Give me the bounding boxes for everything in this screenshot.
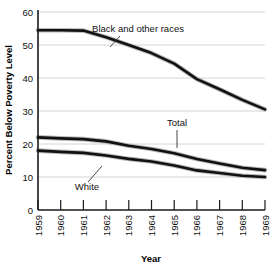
ytick-label-20: 20 bbox=[22, 139, 33, 150]
ytick-label-10: 10 bbox=[22, 172, 33, 183]
xtick-label-1969: 1969 bbox=[260, 215, 271, 236]
xtick-label-1968: 1968 bbox=[237, 215, 248, 236]
x-axis-title: Year bbox=[141, 253, 161, 264]
series-plot-area bbox=[38, 30, 265, 177]
xtick-label-1962: 1962 bbox=[101, 215, 112, 236]
series-label-white: White bbox=[75, 181, 99, 192]
poverty-line-chart: 0 10 20 30 40 50 60 1959 1960 1961 1962 … bbox=[0, 0, 274, 265]
ytick-label-30: 30 bbox=[22, 106, 33, 117]
axes bbox=[38, 10, 265, 210]
xtick-label-1963: 1963 bbox=[123, 215, 134, 236]
xtick-label-1967: 1967 bbox=[214, 215, 225, 236]
series-label-total: Total bbox=[167, 117, 187, 128]
xtick-label-1965: 1965 bbox=[169, 215, 180, 236]
series-black-and-other-races bbox=[38, 30, 265, 109]
series-black-line bbox=[38, 30, 265, 109]
chart-canvas: 0 10 20 30 40 50 60 1959 1960 1961 1962 … bbox=[0, 0, 274, 265]
annotation-white: White bbox=[75, 166, 102, 192]
xtick-label-1964: 1964 bbox=[146, 215, 157, 236]
xtick-label-1959: 1959 bbox=[33, 215, 44, 236]
annotation-total: Total bbox=[167, 117, 187, 148]
y-axis-title: Percent Below Poverty Level bbox=[3, 45, 14, 175]
series-black-shadow bbox=[38, 30, 265, 109]
x-ticks bbox=[38, 200, 265, 210]
xtick-label-1966: 1966 bbox=[191, 215, 202, 236]
ytick-label-40: 40 bbox=[22, 73, 33, 84]
ytick-label-0: 0 bbox=[28, 205, 33, 216]
series-label-black-and-other-races: Black and other races bbox=[92, 23, 184, 34]
x-tick-labels: 1959 1960 1961 1962 1963 1964 1965 1966 … bbox=[33, 215, 271, 236]
ytick-label-60: 60 bbox=[22, 7, 33, 18]
ytick-label-50: 50 bbox=[22, 40, 33, 51]
y-tick-labels: 0 10 20 30 40 50 60 bbox=[22, 7, 33, 216]
xtick-label-1960: 1960 bbox=[55, 215, 66, 236]
pointer-white bbox=[88, 166, 102, 182]
xtick-label-1961: 1961 bbox=[78, 215, 89, 236]
